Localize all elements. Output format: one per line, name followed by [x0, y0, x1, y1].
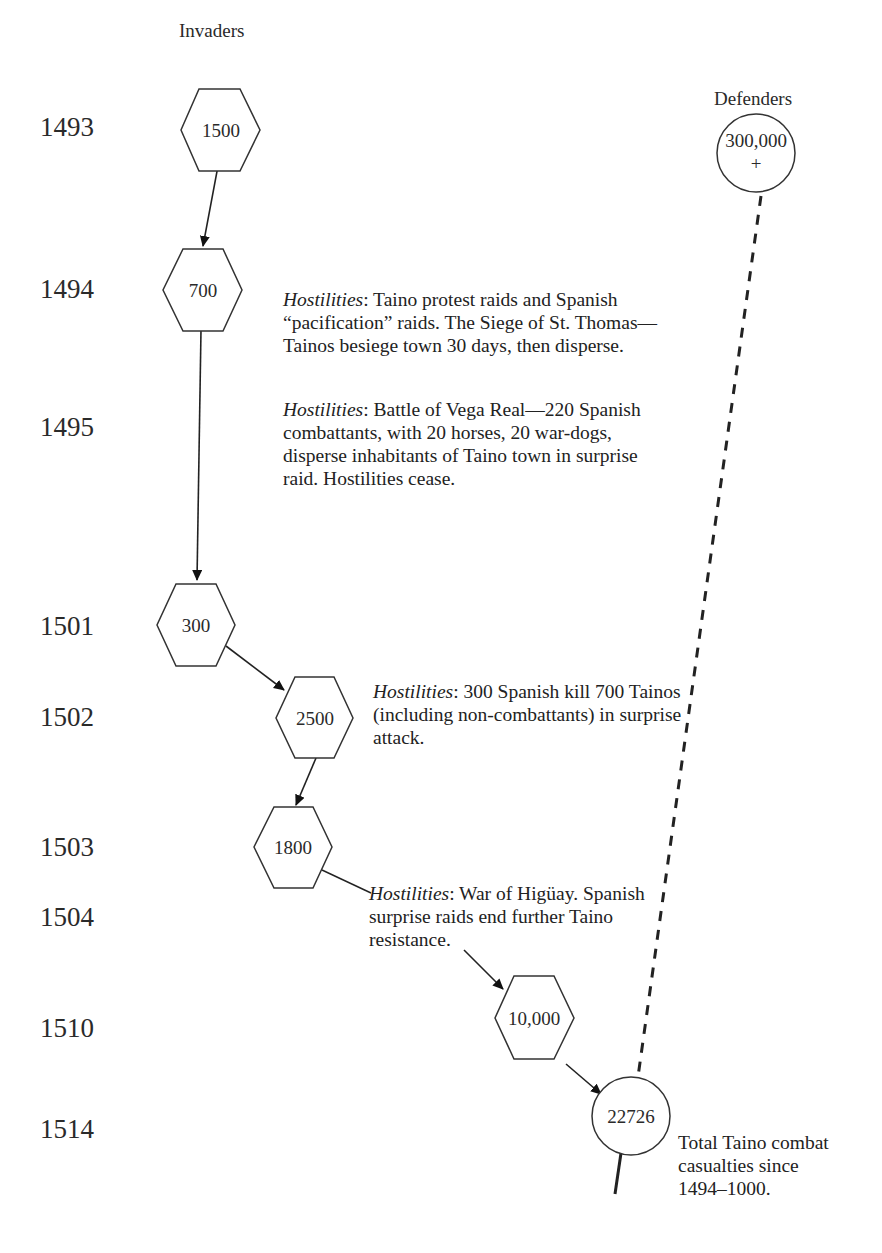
node-label-700: 700: [189, 280, 218, 301]
arrow-1500-to-700: [203, 166, 218, 246]
note-label: Hostilities: [283, 399, 363, 420]
arrow-300-to-2500: [226, 646, 284, 690]
hostilities-note-1502: Hostilities: 300 Spanish kill 700 Tainos…: [373, 680, 698, 749]
note-label: Hostilities: [369, 883, 449, 904]
node-label-1500: 1500: [202, 120, 240, 141]
node-label-10000: 10,000: [508, 1008, 560, 1029]
node-label-300000: 300,000: [725, 130, 787, 151]
arrow-10000-to-22726: [566, 1064, 601, 1094]
note-label: Hostilities: [373, 681, 453, 702]
arrow-note-to-10000: [464, 950, 503, 989]
node-label-2500: 2500: [296, 708, 334, 729]
hostilities-note-1495: Hostilities: Battle of Vega Real—220 Spa…: [283, 398, 663, 490]
timeline-diagram: 1500 700 300 2500 1800 10,000 300,000 + …: [0, 0, 882, 1253]
arrow-700-to-300: [197, 330, 201, 580]
node-label-plus: +: [751, 153, 762, 174]
total-casualties-note: Total Taino combat casualties since 1494…: [678, 1131, 838, 1200]
node-label-22726: 22726: [607, 1106, 655, 1127]
arrow-2500-to-1800: [296, 758, 316, 805]
connector-1800-to-note: [322, 870, 371, 893]
defenders-tail-line: [615, 1153, 621, 1194]
note-label: Hostilities: [283, 289, 363, 310]
hostilities-note-1504: Hostilities: War of Higüay. Spanish surp…: [369, 882, 699, 951]
node-label-1800: 1800: [274, 837, 312, 858]
hostilities-note-1494: Hostilities: Taino protest raids and Spa…: [283, 288, 663, 357]
node-label-300: 300: [182, 615, 211, 636]
